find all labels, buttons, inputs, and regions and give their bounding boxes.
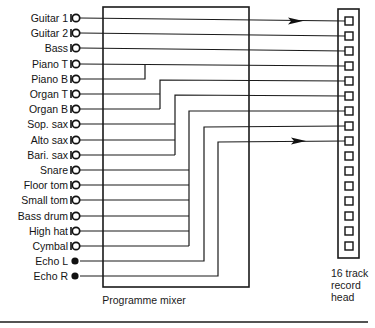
track-slot-3 — [345, 47, 353, 55]
filled-dot-icon — [71, 272, 78, 279]
jack-icon — [72, 60, 79, 67]
jack-icon — [72, 14, 79, 21]
track-slot-10 — [345, 152, 353, 160]
track-slot-15 — [345, 227, 353, 235]
arrow-track-1-icon — [288, 18, 303, 25]
input-label-bari-sax: Bari. sax — [27, 149, 69, 161]
jack-icon — [72, 29, 79, 36]
jack-icon — [72, 90, 79, 97]
wire-guitar-1-to-track-1 — [80, 18, 345, 21]
wire-piano-b-merge — [80, 64, 145, 79]
track-slot-1 — [345, 17, 353, 25]
track-slot-8 — [345, 122, 353, 130]
track-slot-2 — [345, 32, 353, 40]
jack-icon — [72, 44, 79, 51]
input-labels: Guitar 1 Guitar 2 Bass Piano T Piano B O… — [18, 12, 69, 282]
input-label-guitar-2: Guitar 2 — [31, 27, 69, 39]
input-connectors — [71, 14, 80, 280]
routing-wires — [80, 18, 345, 276]
record-head-caption-line-2: record — [331, 279, 361, 291]
jack-icon — [72, 120, 79, 127]
jack-icon — [72, 227, 79, 234]
input-label-piano-t: Piano T — [32, 58, 69, 70]
input-label-floor-tom: Floor tom — [24, 179, 69, 191]
input-label-guitar-1: Guitar 1 — [31, 12, 69, 24]
track-slot-12 — [345, 182, 353, 190]
track-slot-9 — [345, 137, 353, 145]
input-label-bass: Bass — [45, 42, 68, 54]
track-slot-13 — [345, 197, 353, 205]
wire-guitar-2-to-track-2 — [80, 33, 345, 36]
track-slot-4 — [345, 62, 353, 70]
jack-icon — [72, 212, 79, 219]
jack-icon — [72, 242, 79, 249]
track-slot-16 — [345, 242, 353, 250]
record-head-caption: 16 track record head — [331, 267, 369, 303]
track-slot-14 — [345, 212, 353, 220]
jack-icon — [72, 181, 79, 188]
input-label-bass-drum: Bass drum — [18, 210, 68, 222]
jack-icon — [72, 105, 79, 112]
input-label-piano-b: Piano B — [31, 73, 68, 85]
record-head-tracks — [345, 17, 353, 250]
jack-icon — [72, 166, 79, 173]
bus-sax-to-track-6 — [175, 95, 345, 155]
record-head-caption-line-1: 16 track — [331, 267, 369, 279]
wire-piano-t-to-track-4 — [80, 64, 345, 66]
input-label-alto-sax: Alto sax — [31, 134, 69, 146]
wire-echo-r-to-track-9 — [80, 141, 345, 276]
programme-mixer-label: Programme mixer — [102, 294, 186, 306]
track-slot-5 — [345, 77, 353, 85]
jack-icon — [72, 75, 79, 82]
input-label-organ-b: Organ B — [29, 103, 68, 115]
track-slot-6 — [345, 92, 353, 100]
input-label-sop-sax: Sop. sax — [27, 118, 69, 130]
multitrack-routing-diagram: Programme mixer Guitar 1 Guitar 2 Bass P… — [0, 0, 375, 328]
input-label-echo-l: Echo L — [35, 255, 68, 267]
jack-icon — [72, 151, 79, 158]
input-label-snare: Snare — [40, 164, 68, 176]
jack-icon — [72, 196, 79, 203]
track-slot-11 — [345, 167, 353, 175]
input-label-high-hat: High hat — [29, 225, 68, 237]
wire-echo-l-to-track-8 — [80, 126, 345, 261]
input-label-organ-t: Organ T — [30, 88, 69, 100]
input-label-cymbal: Cymbal — [32, 240, 68, 252]
jack-icon — [72, 136, 79, 143]
bus-drums-to-track-7 — [189, 111, 345, 246]
filled-dot-icon — [71, 257, 78, 264]
wire-bass-to-track-3 — [80, 48, 345, 51]
input-label-echo-r: Echo R — [34, 270, 69, 282]
track-slot-7 — [345, 107, 353, 115]
input-label-small-tom: Small tom — [21, 194, 68, 206]
record-head-caption-line-3: head — [331, 291, 355, 303]
